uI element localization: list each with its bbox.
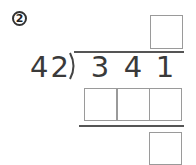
dividend-digit-tens: 4 — [121, 52, 145, 82]
product-answer-box-hundreds[interactable] — [84, 88, 117, 121]
subtraction-line — [79, 125, 184, 127]
long-division-bracket-icon — [66, 51, 78, 81]
dividend-digit-hundreds: 3 — [88, 52, 112, 82]
product-answer-box-tens[interactable] — [117, 88, 150, 121]
product-answer-box-ones[interactable] — [149, 88, 182, 121]
remainder-answer-box[interactable] — [149, 132, 182, 165]
problem-number-badge: 2 — [12, 11, 27, 26]
dividend-digit-ones: 1 — [153, 52, 177, 82]
divisor: 42 — [30, 52, 71, 82]
quotient-answer-box[interactable] — [150, 15, 183, 49]
